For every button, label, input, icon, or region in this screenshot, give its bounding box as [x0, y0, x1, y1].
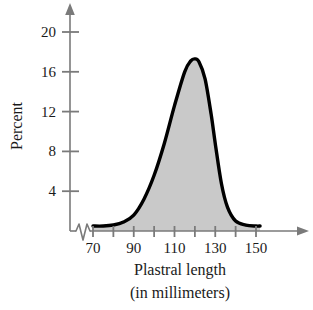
distribution-area — [93, 59, 260, 231]
y-tick-label-20: 20 — [41, 24, 56, 40]
x-tick-label-130: 130 — [204, 240, 227, 256]
x-tick-label-group: 7090110130150 — [86, 240, 268, 256]
y-tick-label-12: 12 — [41, 104, 56, 120]
y-tick-label-group: 48121620 — [41, 24, 57, 199]
y-tick-label-4: 4 — [49, 183, 57, 199]
x-axis-title-line1: Plastral length — [134, 261, 226, 279]
density-curve-figure: 48121620 7090110130150 Percent Plastral … — [0, 0, 313, 310]
y-tick-label-8: 8 — [49, 143, 57, 159]
x-tick-label-70: 70 — [86, 240, 101, 256]
y-axis — [62, 3, 79, 231]
x-tick-label-110: 110 — [164, 240, 186, 256]
y-axis-arrow-icon — [65, 3, 75, 15]
y-axis-title: Percent — [8, 101, 25, 150]
axis-break-icon — [76, 224, 90, 240]
x-axis-title-line2: (in millimeters) — [130, 284, 230, 302]
x-tick-label-90: 90 — [126, 240, 141, 256]
x-axis-arrow-icon — [297, 226, 309, 235]
y-tick-label-16: 16 — [41, 64, 57, 80]
x-tick-label-150: 150 — [245, 240, 268, 256]
chart-canvas: 48121620 7090110130150 Percent Plastral … — [0, 0, 313, 310]
